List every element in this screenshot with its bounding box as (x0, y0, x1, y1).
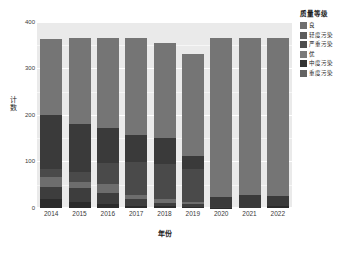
legend-swatch-icon (300, 51, 307, 58)
x-tick-2015: 2015 (65, 210, 95, 217)
x-tick-2018: 2018 (150, 210, 180, 217)
bar-segment-良 (125, 135, 147, 162)
bar-segment-优 (267, 38, 289, 196)
legend-swatch-icon (300, 70, 307, 77)
bar-segment-轻度污染 (97, 163, 119, 184)
x-tick-2017: 2017 (121, 210, 151, 217)
legend-item-label: 优 (309, 51, 315, 58)
stacked-bar-chart: 计 数 400 300 200 100 0 201420152016201720… (0, 0, 363, 264)
legend-swatch-icon (300, 60, 307, 67)
bar-segment-轻度污染 (40, 169, 62, 176)
bar-segment-轻度污染 (154, 164, 176, 199)
bar-segment-轻度污染 (125, 162, 147, 195)
bar-segment-严重污染 (40, 199, 62, 208)
x-tick-2014: 2014 (36, 210, 66, 217)
bar-2014 (40, 39, 62, 208)
bar-segment-优 (154, 43, 176, 138)
legend-item-4[interactable]: 中度污染 (300, 59, 360, 68)
x-tick-2021: 2021 (235, 210, 265, 217)
legend-items: 良轻度污染严重污染优中度污染重度污染 (300, 21, 360, 78)
bar-segment-中度污染 (40, 177, 62, 187)
bar-segment-严重污染 (182, 207, 204, 208)
bar-segment-良 (210, 197, 232, 207)
legend-swatch-icon (300, 32, 307, 39)
bar-2017 (125, 38, 147, 208)
legend-title: 质量等级 (300, 8, 360, 18)
bar-segment-优 (125, 38, 147, 134)
bar-segment-严重污染 (267, 206, 289, 208)
x-tick-2020: 2020 (206, 210, 236, 217)
y-tick-400: 400 (13, 19, 35, 25)
y-tick-200: 200 (13, 112, 35, 118)
bar-segment-轻度污染 (182, 169, 204, 202)
bar-2020 (210, 38, 232, 208)
bar-segment-良 (97, 128, 119, 163)
legend-item-0[interactable]: 良 (300, 21, 360, 30)
legend-item-5[interactable]: 重度污染 (300, 69, 360, 78)
legend-item-label: 重度污染 (309, 70, 333, 77)
legend-item-1[interactable]: 轻度污染 (300, 31, 360, 40)
y-tick-0: 0 (13, 205, 35, 211)
bar-2018 (154, 43, 176, 208)
bar-segment-优 (210, 38, 232, 197)
bar-2015 (69, 38, 91, 208)
bar-segment-优 (69, 38, 91, 124)
legend-item-label: 良 (309, 22, 315, 29)
x-tick-2016: 2016 (93, 210, 123, 217)
legend: 质量等级 良轻度污染严重污染优中度污染重度污染 (300, 8, 360, 78)
bar-segment-重度污染 (40, 187, 62, 199)
bar-segment-良 (239, 195, 261, 208)
legend-item-label: 中度污染 (309, 60, 333, 67)
bar-segment-优 (182, 54, 204, 156)
bar-group (37, 22, 292, 208)
bar-segment-轻度污染 (69, 172, 91, 183)
bar-2019 (182, 54, 204, 208)
x-axis-tick-labels: 201420152016201720182019202020212022 (37, 210, 292, 222)
legend-item-2[interactable]: 严重污染 (300, 40, 360, 49)
x-tick-2022: 2022 (263, 210, 293, 217)
plot-panel (37, 22, 292, 208)
bar-segment-严重污染 (97, 204, 119, 208)
x-tick-2019: 2019 (178, 210, 208, 217)
bar-segment-严重污染 (125, 206, 147, 208)
bar-segment-中度污染 (97, 184, 119, 193)
bar-segment-重度污染 (97, 193, 119, 204)
bar-2021 (239, 38, 261, 208)
y-tick-100: 100 (13, 158, 35, 164)
bar-segment-良 (267, 196, 289, 206)
bar-segment-优 (97, 38, 119, 127)
bar-segment-优 (239, 38, 261, 195)
bar-2016 (97, 38, 119, 208)
bar-segment-优 (40, 39, 62, 115)
bar-2022 (267, 38, 289, 208)
bar-segment-重度污染 (69, 188, 91, 201)
bar-segment-良 (40, 115, 62, 169)
legend-item-label: 轻度污染 (309, 32, 333, 39)
legend-item-label: 严重污染 (309, 41, 333, 48)
legend-swatch-icon (300, 41, 307, 48)
y-tick-300: 300 (13, 65, 35, 71)
bar-segment-严重污染 (69, 202, 91, 209)
x-axis-title: 年份 (37, 228, 292, 238)
legend-item-3[interactable]: 优 (300, 50, 360, 59)
legend-swatch-icon (300, 22, 307, 29)
y-axis-tick-labels: 400 300 200 100 0 (11, 0, 35, 264)
bar-segment-良 (154, 138, 176, 164)
bar-segment-良 (182, 156, 204, 170)
bar-segment-良 (69, 124, 91, 172)
bar-segment-严重污染 (154, 206, 176, 208)
